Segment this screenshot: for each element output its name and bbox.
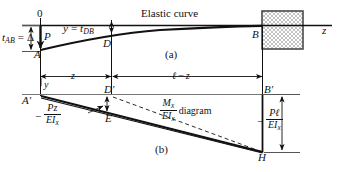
tAB-equals: = xyxy=(15,31,27,43)
dimension-label-l-minus-z: ℓ−z xyxy=(172,70,190,81)
wall-support-block xyxy=(262,11,303,49)
origin-label: 0 xyxy=(37,8,43,19)
figure-linework xyxy=(0,0,339,172)
elastic-curve-label: Elastic curve xyxy=(141,8,198,19)
dimension-label-z: z xyxy=(71,71,75,81)
point-label-B-prime: B' xyxy=(264,84,273,95)
Mx-numerator: Mx xyxy=(160,98,177,110)
Pz-denominator: EIx xyxy=(44,114,61,127)
dimension-label-y: y xyxy=(44,80,48,90)
point-label-A-prime: A' xyxy=(22,95,31,106)
Pl-EIx-denominator: EIx xyxy=(266,119,283,132)
point-label-H: H xyxy=(258,152,266,163)
Pz-over-EIx-fraction: Pz EIx xyxy=(44,103,61,127)
point-label-E: E xyxy=(105,113,112,124)
subfigure-label-a: (a) xyxy=(165,49,177,60)
moment-diagram-hypotenuse-secondary xyxy=(41,98,263,153)
tAB-subscript: AB xyxy=(5,36,15,45)
axis-label-z: z xyxy=(322,25,326,36)
point-label-A: A xyxy=(34,49,41,60)
moment-diagram-label: Mx EIx diagram xyxy=(160,98,211,123)
y-equals-tDB-label: y=tDB xyxy=(63,22,94,36)
y-equals-sign: = xyxy=(68,22,80,34)
moment-diagram-hypotenuse xyxy=(41,96,263,152)
Pl-numerator: Pℓ xyxy=(266,108,283,119)
Pz-minus-sign: − xyxy=(35,110,41,122)
Pl-minus-sign: − xyxy=(257,115,263,127)
subfigure-label-b: (b) xyxy=(155,144,168,155)
EIx-denominator: EIx xyxy=(160,110,177,123)
beam-deflection-figure: 0 Elastic curve z tAB=Δ P A y=tDB D B (a… xyxy=(0,0,339,172)
dimension-minus-sign: − xyxy=(176,70,186,81)
dimension-z-symbol: z xyxy=(186,70,190,81)
diagram-word: diagram xyxy=(179,105,212,116)
delta-symbol: Δ xyxy=(27,31,34,43)
tDB-subscript: DB xyxy=(83,27,94,36)
point-label-B: B xyxy=(252,29,259,40)
Pl-over-EIx-fraction: Pℓ EIx xyxy=(266,108,283,132)
point-label-D: D xyxy=(103,38,111,49)
tAB-equals-delta-label: tAB=Δ xyxy=(2,31,34,45)
load-label-P: P xyxy=(44,31,51,42)
Mx-over-EIx-fraction: Mx EIx xyxy=(160,98,177,123)
point-label-D-prime: D' xyxy=(104,84,114,95)
Pz-numerator: Pz xyxy=(44,103,61,114)
